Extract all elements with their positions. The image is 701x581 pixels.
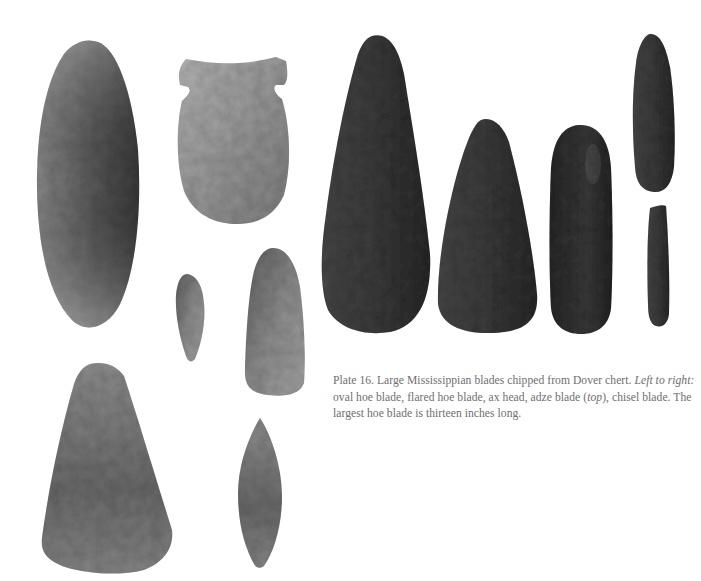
narrow-blade-image [244,247,306,397]
flared-hoe-blade-image [437,118,539,334]
ax-head-image [549,124,613,334]
chisel-blade-image [646,204,670,328]
small-point-image [175,273,206,363]
caption-main: Large Mississippian blades chipped from … [377,374,632,387]
flared-blade-image [40,362,175,575]
adze-blade-image [632,33,676,193]
plate-caption: Plate 16. Large Mississippian blades chi… [333,373,695,423]
notched-hoe-blade-image [176,55,292,225]
caption-italic-top: top [587,391,602,404]
leaf-blade-image [238,418,283,568]
oval-hoe-blade-image [320,34,432,334]
plate-number: Plate 16. [333,374,374,387]
caption-list: oval hoe blade, flared hoe blade, ax hea… [333,391,587,404]
plate-figure: Plate 16. Large Mississippian blades chi… [0,0,701,581]
caption-italic-left-to-right: Left to right: [634,374,694,387]
large-oval-blade-image [36,40,142,334]
